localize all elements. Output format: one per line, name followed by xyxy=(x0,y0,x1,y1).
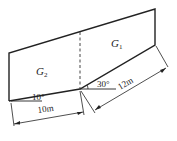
dim-label-12m: 12m xyxy=(116,75,135,92)
label-g1: G1 xyxy=(111,37,123,51)
dim-label-10m: 10m xyxy=(37,103,54,115)
arrow-10m-left xyxy=(14,121,20,125)
arrow-12m-right xyxy=(160,68,166,73)
diagram-canvas: G2 G1 10° 30° 10m 12m xyxy=(0,0,177,141)
dim-ext-right xyxy=(156,46,168,67)
angle-arc-30 xyxy=(87,85,88,89)
dim-line-10m xyxy=(14,112,83,124)
label-g2: G2 xyxy=(36,65,48,79)
arrow-10m-right xyxy=(77,112,83,115)
dim-ext-left xyxy=(11,103,14,126)
angle-label-10: 10° xyxy=(32,92,45,102)
angle-label-30: 30° xyxy=(97,79,110,89)
arrow-12m-left xyxy=(95,105,101,110)
